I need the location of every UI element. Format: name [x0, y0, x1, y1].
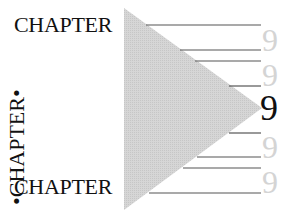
- number-nine-2: 9: [262, 59, 278, 91]
- number-nine-1: 9: [262, 24, 278, 56]
- number-nine-4: 9: [262, 131, 278, 163]
- number-nine-3: 9: [260, 90, 278, 126]
- number-nine-5: 9: [262, 166, 278, 198]
- triangle-rules-graphic: [0, 0, 291, 216]
- gray-triangle: [124, 8, 262, 210]
